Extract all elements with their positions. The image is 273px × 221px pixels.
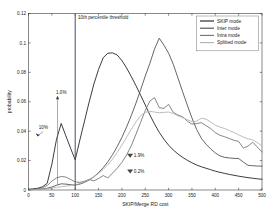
y-tick-label: 0 <box>23 188 26 193</box>
annotation-0-2: 0.2% <box>134 169 144 174</box>
series-group <box>29 38 263 190</box>
x-tick-label: 500 <box>258 193 266 198</box>
annotation-10-leader <box>38 131 43 135</box>
y-axis-title: probability <box>6 90 12 113</box>
x-tick-label: 150 <box>95 193 103 198</box>
x-tick-label: 450 <box>235 193 243 198</box>
probability-distribution-chart: 10th percentile threshold10%1.0%1.9%0.2%… <box>0 0 273 221</box>
series-line-skip-mode <box>29 53 263 189</box>
annotation-10: 10% <box>39 125 48 130</box>
x-tick-label: 250 <box>141 193 149 198</box>
y-tick-label: 0.06 <box>17 99 26 104</box>
annotation-1-0: 1.0% <box>56 90 66 95</box>
x-axis-title: SKIP/Merge RD cost <box>122 201 169 207</box>
y-tick-label: 0.12 <box>17 11 26 16</box>
x-tick-label: 0 <box>27 193 30 198</box>
figure-container: 10th percentile threshold10%1.0%1.9%0.2%… <box>0 0 273 221</box>
x-tick-label: 400 <box>211 193 219 198</box>
legend-label-splitted-mode[interactable]: Splitted mode <box>217 40 247 45</box>
y-tick-label: 0.08 <box>17 70 26 75</box>
annotation-10th-percentile-threshold: 10th percentile threshold <box>78 15 129 20</box>
legend-label-intra-mode[interactable]: Intra mode <box>217 33 240 38</box>
annotation-0-2-arrowhead <box>127 170 133 174</box>
x-tick-label: 350 <box>188 193 196 198</box>
series-line-inter-mode <box>29 38 263 190</box>
x-tick-label: 100 <box>71 193 79 198</box>
chart-legend[interactable]: SKIP modeInter modeIntra modeSplitted mo… <box>197 16 259 51</box>
x-tick-label: 50 <box>49 193 55 198</box>
series-line-intra-mode <box>29 98 263 190</box>
annotation-1-0-arrowhead <box>56 96 59 100</box>
y-tick-label: 0.02 <box>17 158 26 163</box>
x-tick-label: 200 <box>118 193 126 198</box>
legend-label-inter-mode[interactable]: Inter mode <box>217 26 240 31</box>
y-tick-label: 0.1 <box>20 41 27 46</box>
legend-label-skip-mode[interactable]: SKIP mode <box>217 19 242 24</box>
x-tick-label: 300 <box>165 193 173 198</box>
annotation-1-9-arrowhead <box>127 154 133 158</box>
y-tick-label: 0.04 <box>17 129 26 134</box>
annotation-10-arrowhead <box>36 133 40 136</box>
annotation-1-9: 1.9% <box>134 153 144 158</box>
series-line-splitted-mode <box>29 111 263 190</box>
